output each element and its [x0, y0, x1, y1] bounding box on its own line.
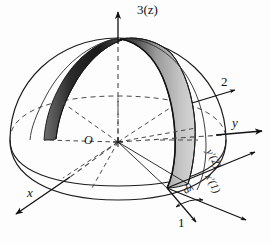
lune-left-body [44, 39, 122, 140]
axis-label-3z: 3(z) [137, 3, 158, 16]
figure-canvas [0, 0, 270, 243]
axis-x-arrow [16, 177, 70, 214]
axis-x-dashed [66, 142, 118, 180]
sphere-lune-figure: 3(z) 2 y x 1 O y'(2) x'(1) dλ [0, 0, 270, 243]
axis-x [16, 142, 118, 214]
lune-left [44, 39, 122, 140]
axis-label-x: x [27, 186, 33, 199]
meridian-left-group [30, 38, 118, 140]
radius-front-left2 [92, 142, 118, 188]
axis-label-2: 2 [221, 75, 228, 88]
origin-label: O [84, 134, 93, 146]
radius-left [44, 140, 118, 142]
axis-label-y: y [232, 116, 238, 129]
meridian-left-outer [30, 38, 118, 140]
axis-y-dashed [118, 135, 222, 142]
radius-strip-near [118, 142, 167, 188]
axis-y-arrow [216, 131, 262, 135]
axis-label-1: 1 [178, 216, 185, 229]
